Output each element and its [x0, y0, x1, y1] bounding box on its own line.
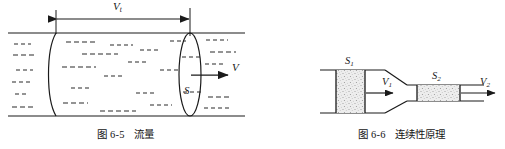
label-cross-section-area: S — [184, 84, 190, 96]
caption-title-6-5: 流量 — [134, 129, 154, 140]
caption-number-6-5: 图 6-5 — [97, 129, 125, 140]
figure-board: Vt S V S1 V1 S2 V2 图 6-5流量 图 6-6连续性原理 — [0, 0, 505, 149]
label-length-dimension: Vt — [113, 0, 122, 14]
label-velocity-v1-sub: 1 — [388, 81, 392, 89]
cylinder-left-cap-arc — [49, 33, 57, 116]
caption-number-6-6: 图 6-6 — [358, 129, 386, 140]
label-area-s2: S2 — [432, 70, 441, 83]
label-velocity-v2-sub: 2 — [486, 81, 490, 89]
caption-figure-6-5: 图 6-5流量 — [97, 126, 154, 141]
caption-figure-6-6: 图 6-6连续性原理 — [358, 126, 446, 141]
fluid-slug-wide — [336, 70, 365, 113]
label-length-dimension-base: V — [113, 0, 120, 12]
label-area-s2-sub: 2 — [437, 75, 441, 83]
fluid-slug-narrow — [417, 85, 460, 101]
figure-6-5-group — [8, 8, 245, 116]
pipe2-taper-bottom — [385, 101, 407, 113]
label-length-dimension-sub: t — [120, 5, 122, 14]
label-velocity: V — [232, 61, 239, 73]
figure-6-6-group — [320, 70, 495, 113]
label-area-s1: S1 — [345, 55, 354, 68]
label-velocity-v2: V2 — [480, 76, 490, 89]
label-velocity-v1: V1 — [382, 76, 392, 89]
caption-title-6-6: 连续性原理 — [395, 129, 446, 140]
length-dimension-group — [56, 8, 190, 36]
label-area-s1-sub: 1 — [350, 60, 354, 68]
